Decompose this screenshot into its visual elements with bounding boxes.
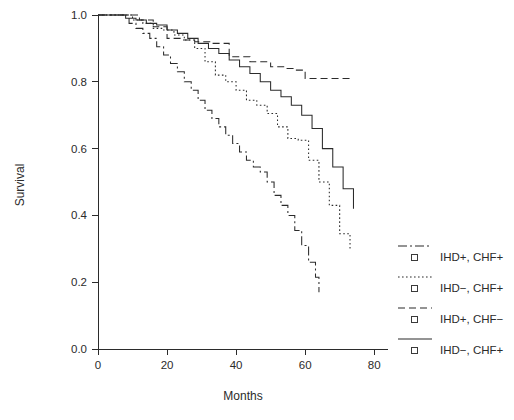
survival-curve-chart: 0.00.20.40.60.81.0 Survival 020406080 Mo… [0,0,514,420]
x-tick-label: 20 [161,359,174,371]
legend-label-2: IHD−, CHF+ [440,282,504,294]
x-tick-label: 80 [368,359,381,371]
y-tick-label: 1.0 [71,9,87,21]
x-tick-label: 40 [230,359,243,371]
y-axis-title: Survival [13,164,27,207]
y-tick-label: 0.8 [71,76,87,88]
y-tick-label: 0.4 [71,209,88,221]
legend-label-4: IHD−, CHF+ [440,344,504,356]
y-tick-label: 0.0 [71,343,87,355]
legend-label-1: IHD+, CHF+ [440,251,504,263]
x-axis-title: Months [223,389,262,403]
x-tick-label: 0 [95,359,101,371]
legend-label-3: IHD+, CHF− [440,313,504,325]
x-tick-label: 60 [299,359,312,371]
y-tick-label: 0.2 [71,276,87,288]
y-tick-label: 0.6 [71,143,87,155]
